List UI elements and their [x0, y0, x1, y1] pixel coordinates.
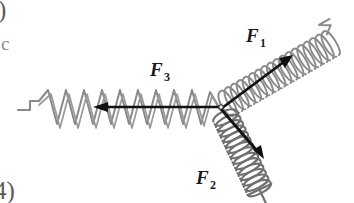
- junction-point: [219, 105, 223, 109]
- label-f3-base: F: [149, 59, 163, 80]
- label-f2-subscript: 2: [210, 178, 216, 192]
- label-f3-subscript: 3: [164, 70, 170, 84]
- spring-force-diagram: F 1 F 2 F 3 ) c 4): [0, 0, 354, 203]
- margin-mark-mid-left: c: [1, 33, 9, 54]
- figure-canvas: F 1 F 2 F 3 ) c 4): [0, 0, 354, 203]
- margin-mark-top-left: ): [0, 0, 6, 24]
- label-f1-subscript: 1: [260, 36, 266, 50]
- margin-mark-bottom-left: 4): [0, 177, 15, 203]
- label-f2-base: F: [195, 167, 209, 188]
- label-f1-base: F: [245, 25, 259, 46]
